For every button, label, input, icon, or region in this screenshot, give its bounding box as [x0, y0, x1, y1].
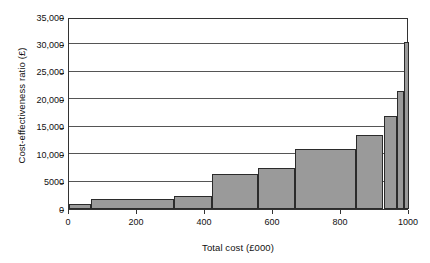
y-axis-ticks: 0500010,00015,00020,00025,00030,00035,00… [0, 18, 64, 210]
x-tick-mark [68, 210, 69, 214]
histogram-bar [69, 204, 91, 209]
histogram-bar [212, 174, 258, 209]
y-tick-label: 30,000 [4, 41, 64, 50]
x-tick-mark [340, 210, 341, 214]
y-tick-label: 20,000 [4, 96, 64, 105]
histogram-bar [404, 42, 409, 209]
x-tick-label: 800 [320, 217, 360, 227]
x-axis-title: Total cost (£000) [68, 242, 408, 253]
histogram-bar [356, 135, 383, 209]
y-tick-label: 25,000 [4, 68, 64, 77]
x-tick-label: 1000 [388, 217, 428, 227]
plot-area [68, 18, 408, 210]
y-tick-label: 35,000 [4, 14, 64, 23]
x-tick-label: 0 [48, 217, 88, 227]
x-tick-mark [408, 210, 409, 214]
bar-series [69, 19, 407, 209]
x-tick-label: 600 [252, 217, 292, 227]
x-tick-mark [204, 210, 205, 214]
histogram-bar [174, 196, 211, 209]
x-tick-label: 400 [184, 217, 224, 227]
x-tick-mark [136, 210, 137, 214]
x-tick-label: 200 [116, 217, 156, 227]
x-axis-ticks: 02004006008001000 [68, 210, 408, 236]
y-tick-label: 0 [4, 206, 64, 215]
y-tick-label: 5000 [4, 178, 64, 187]
histogram-bar [91, 199, 174, 209]
histogram-bar [295, 149, 356, 209]
chart-figure: Cost-effectiveness ratio (£) 0500010,000… [0, 0, 430, 263]
histogram-bar [258, 168, 295, 209]
histogram-bar [384, 116, 398, 209]
histogram-bar [397, 91, 404, 209]
y-tick-label: 15,000 [4, 123, 64, 132]
y-tick-label: 10,000 [4, 151, 64, 160]
x-tick-mark [272, 210, 273, 214]
